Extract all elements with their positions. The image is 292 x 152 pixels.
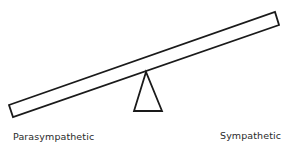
sympathetic-label: Sympathetic	[220, 130, 281, 141]
parasympathetic-label: Parasympathetic	[13, 131, 94, 142]
fulcrum-triangle	[134, 72, 162, 111]
